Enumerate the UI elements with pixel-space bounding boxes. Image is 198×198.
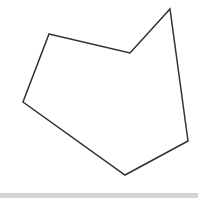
bottom-band	[0, 193, 198, 198]
polygon-shape	[23, 9, 188, 175]
diagram-canvas	[0, 0, 198, 198]
